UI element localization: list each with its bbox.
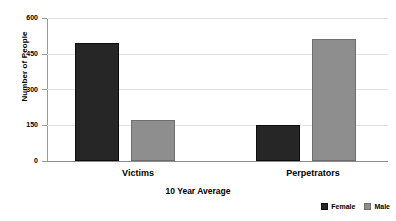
legend-label-female: Female <box>331 203 355 210</box>
legend-label-male: Male <box>374 203 390 210</box>
bar-victims-male <box>131 120 175 161</box>
y-tick-label-0: 0 <box>8 157 38 164</box>
y-tick-label-450: 450 <box>8 50 38 57</box>
bar-perpetrators-female <box>256 125 300 161</box>
y-tick-label-600: 600 <box>8 14 38 21</box>
y-tick-label-300: 300 <box>8 86 38 93</box>
x-axis-line <box>47 161 388 162</box>
x-category-label-victims: Victims <box>88 168 188 178</box>
plot-area <box>47 18 388 161</box>
legend-item-male: Male <box>364 203 390 210</box>
gridline-600 <box>47 18 388 19</box>
legend-swatch-female-icon <box>321 203 328 210</box>
x-category-label-perpetrators: Perpetrators <box>258 168 368 178</box>
y-axis-title: Number of People <box>20 2 29 132</box>
legend-item-female: Female <box>321 203 355 210</box>
bar-perpetrators-male <box>312 39 356 161</box>
y-tick-label-150: 150 <box>8 121 38 128</box>
legend-swatch-male-icon <box>364 203 371 210</box>
x-axis-title: 10 Year Average <box>0 186 396 196</box>
bar-chart: Number of People 600 450 300 150 0 Victi… <box>0 0 396 221</box>
bar-victims-female <box>75 43 119 161</box>
legend: Female Male <box>321 203 390 210</box>
